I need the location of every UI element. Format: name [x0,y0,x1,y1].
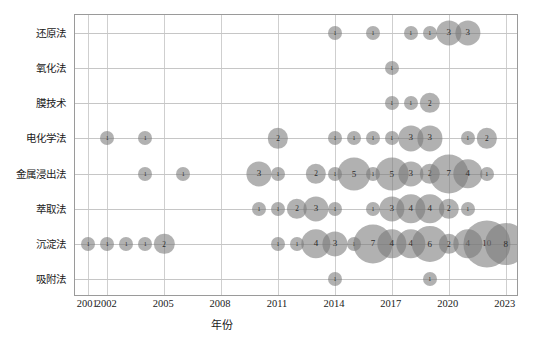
bubble-value-label: 1 [485,171,488,177]
gridline-horizontal-2 [75,103,517,104]
bubble[interactable]: 1 [100,131,114,145]
bubble[interactable]: 1 [176,167,190,181]
bubble[interactable]: 2 [420,93,440,113]
bubble-value-label: 1 [333,135,336,141]
bubble[interactable]: 3 [417,126,442,151]
bubble-value-label: 2 [485,135,489,142]
gridline-vertical-2002 [107,15,108,295]
bubble-value-label: 2 [162,240,166,247]
bubble[interactable]: 3 [303,196,328,221]
bubble[interactable]: 2 [439,199,459,219]
bubble[interactable]: 1 [271,237,285,251]
bubble-value-label: 3 [257,169,262,178]
bubble-value-label: 1 [144,171,147,177]
y-axis-tick-label-4: 金属浸出法 [16,165,66,180]
bubble-value-label: 1 [106,135,109,141]
bubble[interactable]: 2 [154,234,174,254]
bubble-value-label: 1 [428,276,431,282]
bubble-value-label: 2 [447,205,451,212]
bubble[interactable]: 1 [423,272,437,286]
bubble[interactable]: 2 [306,163,326,183]
bubble-value-label: 1 [258,206,261,212]
bubble-value-label: 1 [409,100,412,106]
bubble-value-label: 1 [296,241,299,247]
bubble[interactable]: 1 [100,237,114,251]
bubble-value-label: 4 [314,240,319,249]
bubble-value-label: 1 [277,241,280,247]
bubble-value-label: 1 [125,241,128,247]
bubble[interactable]: 1 [328,26,342,40]
bubble[interactable]: 1 [385,131,399,145]
bubble[interactable]: 1 [366,131,380,145]
bubble[interactable]: 1 [328,272,342,286]
bubble-value-label: 4 [428,204,433,213]
bubble[interactable]: 2 [268,128,288,148]
bubble[interactable]: 1 [366,202,380,216]
bubble-value-label: 1 [144,241,147,247]
x-axis-tick-label-2005: 2005 [153,298,174,309]
gridline-vertical-2008 [221,15,222,295]
x-axis-title-text: 年份 [211,319,233,331]
bubble-value-label: 1 [371,135,374,141]
bubble-value-label: 1 [390,100,393,106]
x-axis-tick-label-2023: 2023 [494,298,515,309]
bubble[interactable]: 1 [461,131,475,145]
bubble[interactable]: 1 [385,61,399,75]
bubble-value-label: 6 [428,240,433,249]
y-axis-tick-label-2: 膜技术 [36,95,66,110]
bubble-value-label: 1 [390,65,393,71]
bubble[interactable]: 1 [271,167,285,181]
bubble[interactable]: 3 [455,20,480,45]
bubble[interactable]: 1 [480,167,494,181]
bubble[interactable]: 1 [404,96,418,110]
bubble[interactable]: 1 [461,202,475,216]
bubble-value-label: 3 [390,204,395,213]
bubble[interactable]: 1 [81,237,95,251]
bubble-value-label: 8 [503,240,508,249]
bubble[interactable]: 1 [138,131,152,145]
bubble[interactable]: 1 [347,131,361,145]
bubble-value-label: 3 [447,28,452,37]
bubble[interactable]: 1 [138,167,152,181]
bubble-value-label: 1 [87,241,90,247]
bubble[interactable]: 8 [485,223,518,265]
x-axis-tick-label-2001: 2001 [77,298,98,309]
bubble[interactable]: 4 [453,159,482,188]
x-axis-tick-label-2014: 2014 [323,298,344,309]
bubble-value-label: 3 [333,240,338,249]
bubble-value-label: 1 [106,241,109,247]
bubble[interactable]: 1 [385,96,399,110]
x-axis-tick-label-2017: 2017 [380,298,401,309]
bubble-value-label: 2 [447,240,451,247]
x-axis-tick-label-2002: 2002 [96,298,117,309]
gridline-horizontal-1 [75,68,517,69]
bubble[interactable]: 3 [246,161,271,186]
bubble-value-label: 1 [333,30,336,36]
bubble[interactable]: 1 [119,237,133,251]
bubble-value-label: 5 [390,169,395,178]
bubble[interactable]: 2 [477,128,497,148]
bubble[interactable]: 1 [138,237,152,251]
bubble[interactable]: 1 [404,26,418,40]
bubble-value-label: 3 [466,28,471,37]
bubble-value-label: 1 [333,206,336,212]
bubble[interactable]: 3 [322,232,347,257]
bubble[interactable]: 1 [252,202,266,216]
bubble-value-label: 1 [371,171,374,177]
y-axis-tick-label-7: 吸附法 [36,271,66,286]
bubble-value-label: 4 [409,204,414,213]
bubble-value-label: 2 [428,99,432,106]
gridline-horizontal-7 [75,279,517,280]
bubble[interactable]: 1 [328,131,342,145]
y-axis-tick-label-0: 还原法 [36,24,66,39]
y-axis-tick-label-1: 氧化法 [36,59,66,74]
bubble-value-label: 1 [371,206,374,212]
bubble-value-label: 1 [409,30,412,36]
y-axis-tick-label-6: 沉淀法 [36,236,66,251]
bubble[interactable]: 1 [423,26,437,40]
gridline-vertical-2011 [278,15,279,295]
bubble[interactable]: 1 [271,202,285,216]
bubble-value-label: 1 [333,276,336,282]
bubble[interactable]: 1 [366,26,380,40]
bubble[interactable]: 1 [328,202,342,216]
